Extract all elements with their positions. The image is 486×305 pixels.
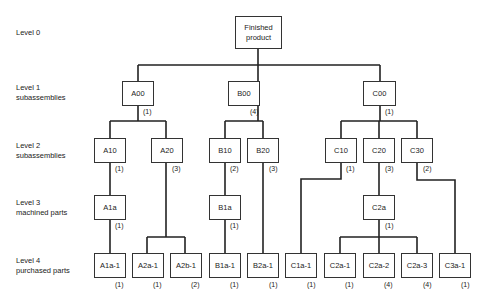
qty-B20: (3) bbox=[269, 165, 278, 172]
node-label: C3a-1 bbox=[445, 261, 465, 271]
qty-C2a-1: (1) bbox=[345, 281, 354, 288]
qty-C2a-2: (4) bbox=[384, 281, 393, 288]
qty-C20: (3) bbox=[385, 165, 394, 172]
node-label: A1a bbox=[103, 203, 116, 213]
qty-A2a-1: (1) bbox=[153, 281, 162, 288]
qty-C30: (2) bbox=[423, 165, 432, 172]
node-label: A20 bbox=[160, 146, 173, 156]
level-label-line: Level 3 bbox=[16, 198, 67, 208]
node-label: B2a-1 bbox=[253, 261, 273, 271]
node-label: C2a bbox=[372, 203, 386, 213]
level-2-label: Level 2 subassemblies bbox=[16, 141, 66, 161]
qty-C2a-3: (4) bbox=[423, 281, 432, 288]
node-label: B20 bbox=[256, 146, 269, 156]
level-3-label: Level 3 machined parts bbox=[16, 198, 67, 218]
node-label: C20 bbox=[372, 146, 386, 156]
node-label: B1a bbox=[218, 203, 231, 213]
node-B1a: B1a bbox=[209, 195, 241, 220]
level-label-line: Level 2 bbox=[16, 141, 66, 151]
qty-A1a-1: (1) bbox=[115, 281, 124, 288]
node-A1a: A1a bbox=[94, 195, 126, 220]
qty-B10: (2) bbox=[230, 165, 239, 172]
node-B2a-1: B2a-1 bbox=[247, 253, 279, 278]
level-label-line: Level 4 bbox=[16, 256, 70, 266]
qty-C1a-1: (1) bbox=[307, 281, 316, 288]
node-finished-product: Finished product bbox=[235, 16, 282, 49]
node-A2b-1: A2b-1 bbox=[170, 253, 202, 278]
node-label: Finished bbox=[244, 23, 272, 33]
qty-C10: (1) bbox=[346, 165, 355, 172]
node-label: C10 bbox=[334, 146, 348, 156]
node-B10: B10 bbox=[209, 138, 241, 163]
qty-A20: (3) bbox=[172, 165, 181, 172]
node-label: C30 bbox=[410, 146, 424, 156]
qty-B00: (4) bbox=[250, 108, 259, 115]
node-C2a-2: C2a-2 bbox=[363, 253, 395, 278]
node-label: A2a-1 bbox=[138, 261, 158, 271]
qty-A10: (1) bbox=[115, 165, 124, 172]
node-C2a-1: C2a-1 bbox=[324, 253, 356, 278]
level-label-line: purchased parts bbox=[16, 266, 70, 276]
node-label: A2b-1 bbox=[176, 261, 196, 271]
node-B00: B00 bbox=[228, 81, 260, 106]
qty-B1a-1: (1) bbox=[230, 281, 239, 288]
qty-B2a-1: (1) bbox=[269, 281, 278, 288]
level-label-line: machined parts bbox=[16, 208, 67, 218]
node-B1a-1: B1a-1 bbox=[209, 253, 241, 278]
node-A10: A10 bbox=[94, 138, 126, 163]
qty-C00: (1) bbox=[385, 108, 394, 115]
node-label: C2a-2 bbox=[369, 261, 389, 271]
node-C00: C00 bbox=[363, 81, 396, 106]
node-A00: A00 bbox=[122, 81, 154, 106]
node-A20: A20 bbox=[151, 138, 183, 163]
node-label: A00 bbox=[131, 89, 144, 99]
node-A2a-1: A2a-1 bbox=[132, 253, 164, 278]
qty-C2a: (1) bbox=[385, 222, 394, 229]
node-C1a-1: C1a-1 bbox=[285, 253, 317, 278]
qty-C3a-1: (1) bbox=[461, 281, 470, 288]
level-label-line: Level 0 bbox=[16, 28, 40, 38]
node-C2a-3: C2a-3 bbox=[401, 253, 433, 278]
node-label: C00 bbox=[373, 89, 387, 99]
qty-A1a: (1) bbox=[115, 222, 124, 229]
node-label: A1a-1 bbox=[100, 261, 120, 271]
node-C30: C30 bbox=[401, 138, 433, 163]
level-1-label: Level 1 subassemblies bbox=[16, 83, 66, 103]
qty-A00: (1) bbox=[143, 108, 152, 115]
level-label-line: Level 1 bbox=[16, 83, 66, 93]
node-label: B10 bbox=[218, 146, 231, 156]
level-0-label: Level 0 bbox=[16, 28, 40, 38]
level-label-line: subassemblies bbox=[16, 151, 66, 161]
node-label: C1a-1 bbox=[291, 261, 311, 271]
node-label: C2a-3 bbox=[407, 261, 427, 271]
qty-B1a: (1) bbox=[230, 222, 239, 229]
node-label: B00 bbox=[237, 89, 250, 99]
node-label: B1a-1 bbox=[215, 261, 235, 271]
qty-A2b-1: (2) bbox=[191, 281, 200, 288]
node-A1a-1: A1a-1 bbox=[94, 253, 126, 278]
node-C10: C10 bbox=[325, 138, 357, 163]
node-B20: B20 bbox=[247, 138, 279, 163]
node-C2a: C2a bbox=[363, 195, 395, 220]
node-label: A10 bbox=[103, 146, 116, 156]
node-C3a-1: C3a-1 bbox=[439, 253, 471, 278]
node-label: product bbox=[246, 33, 271, 43]
level-4-label: Level 4 purchased parts bbox=[16, 256, 70, 276]
node-C20: C20 bbox=[363, 138, 395, 163]
level-label-line: subassemblies bbox=[16, 93, 66, 103]
node-label: C2a-1 bbox=[330, 261, 350, 271]
